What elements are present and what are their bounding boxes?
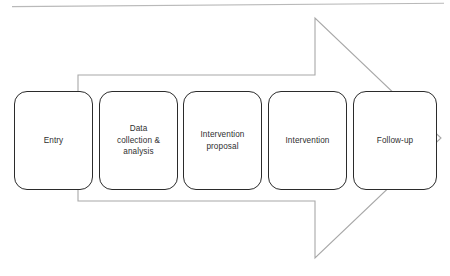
step-label: Entry: [40, 135, 68, 146]
diagram-canvas: Entry Data collection & analysis Interve…: [0, 0, 450, 276]
process-step-list: Entry Data collection & analysis Interve…: [0, 91, 450, 190]
step-label: Intervention proposal: [197, 129, 249, 152]
step-label: Data collection & analysis: [113, 123, 164, 157]
process-step-entry[interactable]: Entry: [14, 91, 93, 190]
process-step-follow-up[interactable]: Follow-up: [353, 91, 437, 190]
process-step-intervention-proposal[interactable]: Intervention proposal: [183, 91, 262, 190]
process-step-intervention[interactable]: Intervention: [268, 91, 347, 190]
process-step-data-collection[interactable]: Data collection & analysis: [99, 91, 178, 190]
step-label: Intervention: [282, 135, 334, 146]
step-label: Follow-up: [373, 135, 417, 146]
